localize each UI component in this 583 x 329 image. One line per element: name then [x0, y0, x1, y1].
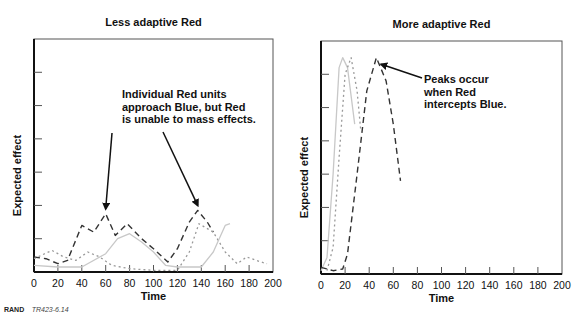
x-tick-label: 40 — [76, 277, 88, 289]
x-tick-label: 60 — [387, 279, 399, 291]
y-axis-title: Expected effect — [298, 137, 310, 219]
chart-more-adaptive: More adaptive Red02040608010012014016018… — [298, 18, 571, 304]
x-tick-label: 180 — [529, 279, 547, 291]
annotation-text: Individual Red unitsapproach Blue, but R… — [122, 88, 256, 125]
x-axis-title: Time — [141, 290, 166, 302]
annotation-arrow — [381, 64, 422, 78]
chart-title: More adaptive Red — [393, 18, 491, 30]
x-tick-label: 200 — [553, 279, 571, 291]
annotation-line: is unable to mass effects. — [122, 113, 256, 125]
x-tick-label: 160 — [216, 277, 234, 289]
annotation-line: Individual Red units — [122, 88, 227, 100]
plot-frame — [34, 39, 273, 272]
x-tick-label: 40 — [363, 279, 375, 291]
credit-id: TR423-6.14 — [32, 306, 69, 313]
annotation-line: intercepts Blue. — [424, 98, 507, 110]
annotation-arrow — [163, 132, 198, 205]
series-solid-line — [34, 224, 230, 267]
credit-org: RAND — [4, 306, 24, 313]
series-dotted-line — [327, 58, 361, 271]
x-tick-label: 120 — [457, 279, 475, 291]
chart-title: Less adaptive Red — [105, 16, 202, 28]
x-tick-label: 0 — [318, 279, 324, 291]
annotation-line: approach Blue, but Red — [122, 101, 245, 113]
x-tick-label: 80 — [124, 277, 136, 289]
x-tick-label: 100 — [145, 277, 163, 289]
x-tick-label: 20 — [52, 277, 64, 289]
chart-less-adaptive: Less adaptive Red02040608010012014016018… — [11, 16, 282, 302]
x-tick-label: 120 — [169, 277, 187, 289]
series-dashed-line — [321, 58, 401, 271]
x-tick-label: 160 — [505, 279, 523, 291]
x-axis-title: Time — [429, 292, 454, 304]
x-tick-label: 0 — [31, 277, 37, 289]
figure: Less adaptive Red02040608010012014016018… — [0, 0, 583, 329]
x-tick-label: 20 — [339, 279, 351, 291]
annotation-line: Peaks occur — [424, 73, 490, 85]
x-tick-label: 200 — [264, 277, 282, 289]
x-tick-label: 180 — [240, 277, 258, 289]
x-tick-label: 100 — [433, 279, 451, 291]
annotation-text: Peaks occurwhen Redintercepts Blue. — [423, 73, 507, 110]
x-tick-label: 80 — [412, 279, 424, 291]
x-tick-label: 140 — [481, 279, 499, 291]
credit: RAND TR423-6.14 — [4, 298, 69, 315]
annotation-line: when Red — [423, 86, 476, 98]
y-axis-title: Expected effect — [11, 135, 23, 217]
annotation-arrow — [106, 133, 112, 209]
x-tick-label: 140 — [193, 277, 211, 289]
x-tick-label: 60 — [100, 277, 112, 289]
